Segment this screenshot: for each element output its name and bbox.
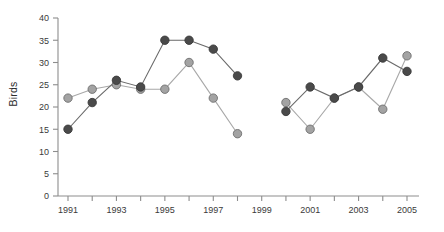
data-point-marker	[64, 94, 72, 102]
data-point-marker	[136, 83, 144, 91]
data-point-marker	[161, 36, 169, 44]
data-point-marker	[88, 98, 96, 106]
data-point-marker	[306, 83, 314, 91]
bird-count-line-chart: Birds 0510152025303540199119931995199719…	[0, 0, 444, 232]
data-point-marker	[161, 85, 169, 93]
data-point-marker	[185, 58, 193, 66]
x-tick-label: 1997	[203, 205, 223, 215]
x-tick-label: 2003	[349, 205, 369, 215]
data-point-marker	[330, 94, 338, 102]
y-tick-label: 40	[39, 13, 49, 23]
data-point-marker	[209, 45, 217, 53]
y-tick-label: 20	[39, 102, 49, 112]
series-line	[286, 58, 407, 111]
plot-area: 0510152025303540199119931995199719992001…	[0, 0, 444, 232]
x-tick-label: 1991	[58, 205, 78, 215]
data-point-marker	[379, 105, 387, 113]
y-tick-label: 15	[39, 125, 49, 135]
data-point-marker	[233, 72, 241, 80]
x-tick-label: 1999	[252, 205, 272, 215]
data-point-marker	[112, 76, 120, 84]
y-tick-label: 25	[39, 80, 49, 90]
data-point-marker	[233, 130, 241, 138]
data-point-marker	[185, 36, 193, 44]
y-tick-label: 35	[39, 36, 49, 46]
data-point-marker	[354, 83, 362, 91]
data-point-marker	[64, 125, 72, 133]
data-point-marker	[379, 54, 387, 62]
y-tick-label: 5	[44, 169, 49, 179]
data-point-marker	[403, 52, 411, 60]
x-tick-label: 1993	[106, 205, 126, 215]
y-tick-label: 10	[39, 147, 49, 157]
y-tick-label: 0	[44, 191, 49, 201]
data-point-marker	[88, 85, 96, 93]
x-tick-label: 2005	[397, 205, 417, 215]
x-tick-label: 1995	[155, 205, 175, 215]
x-tick-label: 2001	[300, 205, 320, 215]
data-point-marker	[282, 107, 290, 115]
y-tick-label: 30	[39, 58, 49, 68]
data-point-marker	[403, 67, 411, 75]
data-point-marker	[306, 125, 314, 133]
data-point-marker	[209, 94, 217, 102]
data-point-marker	[282, 98, 290, 106]
